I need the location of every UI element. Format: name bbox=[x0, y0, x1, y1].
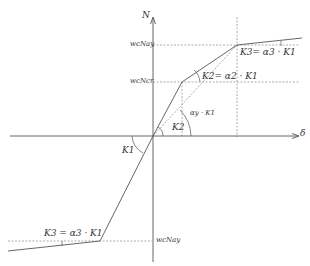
k3-bottom-label: K3 = α3 · K1 bbox=[44, 229, 103, 238]
k1-label: K1 bbox=[122, 146, 134, 155]
lower-yield-level-label: wcNay bbox=[156, 237, 180, 244]
diagram-svg bbox=[0, 0, 310, 266]
k3-top-label: K3= α3 · K1 bbox=[240, 48, 296, 57]
k2-label: K2 bbox=[172, 123, 184, 132]
crack-level-label: wcNcr bbox=[130, 78, 153, 85]
alpha-y-label: αy · K1 bbox=[190, 110, 215, 117]
k2-eq-label: K2= α2 · K1 bbox=[202, 72, 258, 81]
x-axis-label: δ bbox=[300, 129, 305, 138]
y-axis-label: N bbox=[142, 11, 150, 20]
upper-yield-level-label: wcNay bbox=[130, 41, 154, 48]
diagram-canvas: N δ wcNay wcNcr wcNay K3= α3 · K1 K2= α2… bbox=[0, 0, 310, 266]
force-deformation-curve bbox=[8, 38, 302, 251]
secant-line bbox=[153, 45, 237, 136]
